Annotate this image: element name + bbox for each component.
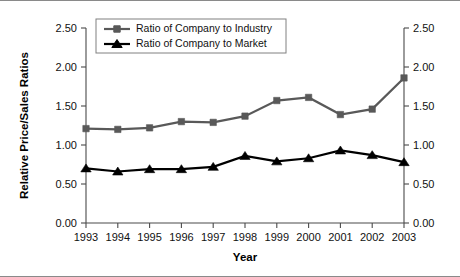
axes: 0.000.000.500.501.001.001.501.502.002.00… [56,22,435,243]
x-axis-tick-label: 1995 [137,231,161,243]
data-point-marker [337,111,343,117]
y-axis-right-tick-label: 2.50 [413,22,434,34]
data-point-marker [178,118,184,124]
x-axis-tick-label: 1996 [169,231,193,243]
y-axis-title: Relative Price/Sales Ratios [18,52,30,199]
y-axis-right-tick-label: 1.00 [413,139,434,151]
data-point-marker [115,126,121,132]
y-axis-left-tick-label: 0.50 [56,178,77,190]
chart-legend: Ratio of Company to IndustryRatio of Com… [96,19,286,53]
data-point-marker [305,94,311,100]
data-point-marker [210,119,216,125]
legend-label: Ratio of Company to Market [136,37,267,49]
y-axis-right-tick-label: 2.00 [413,61,434,73]
legend-label: Ratio of Company to Industry [136,22,273,34]
line-chart: 0.000.000.500.501.001.001.501.502.002.00… [0,1,460,277]
x-axis-tick-label: 2001 [328,231,352,243]
y-axis-left-tick-label: 1.50 [56,100,77,112]
data-series [81,75,409,175]
y-axis-left-tick-label: 1.00 [56,139,77,151]
x-axis-tick-label: 1999 [265,231,289,243]
data-point-marker [369,106,375,112]
legend-marker-swatch [114,26,120,32]
x-axis-tick-label: 1997 [201,231,225,243]
y-axis-left-tick-label: 2.50 [56,22,77,34]
data-point-marker [401,75,407,81]
data-point-marker [274,97,280,103]
x-axis-tick-label: 1994 [106,231,130,243]
y-axis-right-tick-label: 0.00 [413,217,434,229]
data-point-marker [83,125,89,131]
data-point-marker [242,113,248,119]
x-axis-title: Year [233,251,258,263]
x-axis-tick-label: 1993 [74,231,98,243]
y-axis-left-tick-label: 2.00 [56,61,77,73]
y-axis-right-tick-label: 1.50 [413,100,434,112]
y-axis-left-tick-label: 0.00 [56,217,77,229]
data-point-marker [146,125,152,131]
x-axis-tick-label: 2000 [296,231,320,243]
x-axis-tick-label: 2003 [392,231,416,243]
series-line-1 [86,78,404,129]
x-axis-tick-label: 1998 [233,231,257,243]
x-axis-tick-label: 2002 [360,231,384,243]
chart-figure: 0.000.000.500.501.001.001.501.502.002.00… [0,0,460,277]
y-axis-right-tick-label: 0.50 [413,178,434,190]
